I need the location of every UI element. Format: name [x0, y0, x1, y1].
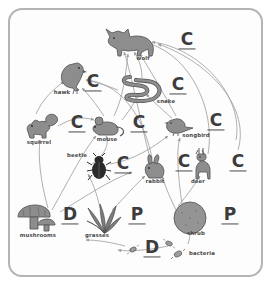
role-tag-beetle: C	[115, 156, 132, 173]
role-letter-mushrooms: D	[62, 207, 79, 222]
role-letter-songbird: C	[208, 113, 225, 128]
role-tag-wolf: C	[179, 32, 196, 49]
food-web-diagram: wolf hawk snake squirrel mouse songbird …	[0, 0, 273, 287]
role-tag-grasses: P	[129, 207, 146, 224]
role-tag-hawk: C	[85, 74, 102, 91]
role-tag-rabbit: C	[176, 154, 193, 171]
role-letter-hawk: C	[85, 74, 102, 89]
role-letter-mouse: C	[131, 115, 148, 130]
role-tag-deer: C	[230, 154, 247, 171]
label-songbird: songbird	[182, 132, 210, 138]
role-tag-snake: C	[170, 77, 187, 94]
role-tag-shrub: P	[222, 207, 239, 224]
arrow-grasses-bacteria	[86, 240, 125, 246]
role-tag-mouse: C	[131, 115, 148, 132]
role-tag-squirrel: C	[69, 115, 86, 132]
label-snake: snake	[157, 98, 175, 104]
beetle-icon[interactable]	[87, 153, 111, 183]
bacteria-icon-secondary	[127, 245, 139, 256]
role-letter-wolf: C	[179, 32, 196, 47]
squirrel-icon[interactable]	[24, 112, 60, 142]
label-hawk: hawk	[54, 89, 70, 95]
role-letter-deer: C	[230, 154, 247, 169]
label-squirrel: squirrel	[27, 139, 51, 145]
rabbit-icon[interactable]	[141, 153, 169, 181]
label-wolf: wolf	[136, 55, 149, 61]
label-beetle: beetle	[67, 152, 87, 158]
wolf-icon[interactable]	[102, 25, 158, 59]
label-grasses: grasses	[85, 232, 109, 238]
label-bacteria: bacteria	[189, 250, 215, 256]
role-letter-shrub: P	[222, 207, 239, 222]
arrow-rabbit-wolf	[124, 52, 150, 158]
role-letter-snake: C	[170, 77, 187, 92]
arrow-mushrooms-squirrel	[39, 140, 48, 208]
label-shrub: shrub	[187, 230, 205, 236]
mushrooms-icon[interactable]	[14, 204, 60, 234]
deer-icon[interactable]	[189, 148, 219, 182]
role-tag-mushrooms: D	[62, 207, 79, 224]
role-tag-bacteria: D	[144, 240, 161, 257]
role-tag-songbird: C	[208, 113, 225, 130]
role-letter-bacteria: D	[144, 240, 161, 255]
role-letter-rabbit: C	[176, 154, 193, 169]
role-letter-grasses: P	[129, 207, 146, 222]
bacteria-icon-tertiary	[163, 239, 175, 250]
bacteria-icon[interactable]	[171, 248, 185, 260]
role-letter-beetle: C	[115, 156, 132, 171]
grasses-icon[interactable]	[86, 202, 122, 234]
role-letter-squirrel: C	[69, 115, 86, 130]
label-mouse: mouse	[97, 136, 118, 142]
label-rabbit: rabbit	[145, 178, 164, 184]
label-mushrooms: mushrooms	[20, 232, 56, 238]
label-deer: deer	[191, 178, 205, 184]
